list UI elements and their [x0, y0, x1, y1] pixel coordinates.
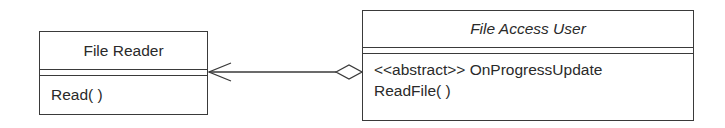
operations-compartment: Read( ): [40, 76, 207, 105]
class-file-reader[interactable]: File Reader Read( ): [39, 31, 208, 115]
class-file-access-user[interactable]: File Access User <<abstract>> OnProgress…: [362, 10, 694, 121]
attributes-compartment: [363, 47, 693, 54]
class-name: File Access User: [363, 11, 693, 47]
operations-compartment: <<abstract>> OnProgressUpdate ReadFile( …: [363, 54, 693, 101]
operation-read-file: ReadFile( ): [374, 80, 693, 101]
operation-on-progress-update: <<abstract>> OnProgressUpdate: [374, 59, 693, 80]
aggregation-diamond: [336, 65, 362, 79]
operation-read: Read( ): [51, 84, 207, 105]
attributes-compartment: [40, 69, 207, 76]
class-name: File Reader: [40, 32, 207, 69]
